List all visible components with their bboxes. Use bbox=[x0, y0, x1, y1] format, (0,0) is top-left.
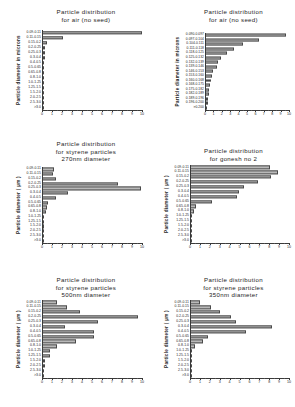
x-axis-tick bbox=[222, 110, 223, 112]
x-axis-tick bbox=[272, 110, 273, 112]
x-axis-tick-label: 9 bbox=[131, 245, 133, 249]
x-axis-tick-label: 1 bbox=[199, 380, 201, 384]
x-axis-tick bbox=[122, 378, 123, 380]
bar-series: 0.09-0.110.11-0.150.15-0.20.2-0.250.25-0… bbox=[0, 271, 148, 407]
category-label: 2.0-2.5 bbox=[24, 96, 42, 100]
x-axis-tick bbox=[102, 243, 103, 245]
x-axis-minor-tick bbox=[87, 378, 88, 379]
bar bbox=[42, 31, 142, 34]
bar bbox=[42, 41, 46, 44]
bar bbox=[42, 340, 76, 343]
x-axis-tick-label: 3 bbox=[219, 380, 221, 384]
category-label: >0.200 bbox=[183, 106, 205, 110]
x-axis-minor-tick bbox=[243, 110, 244, 111]
category-label: 0.65-0.8 bbox=[24, 71, 42, 75]
category-label: 0.5-0.65 bbox=[24, 66, 42, 70]
x-axis-tick-label: 3 bbox=[219, 245, 221, 249]
bar bbox=[42, 354, 50, 357]
x-axis-tick bbox=[289, 110, 290, 112]
category-label: 0.5-0.65 bbox=[24, 335, 42, 339]
x-axis-tick bbox=[42, 110, 43, 112]
x-axis-tick-label: 1 bbox=[51, 380, 53, 384]
bar bbox=[205, 65, 216, 68]
x-axis-minor-tick bbox=[205, 378, 206, 379]
x-axis-minor-tick bbox=[226, 110, 227, 111]
x-axis-tick-label: 0 bbox=[41, 245, 43, 249]
x-axis-minor-tick bbox=[77, 110, 78, 111]
bar bbox=[42, 196, 56, 199]
x-axis-tick-label: 3 bbox=[71, 380, 73, 384]
x-axis-minor-tick bbox=[264, 378, 265, 379]
x-axis-minor-tick bbox=[205, 243, 206, 244]
x-axis-tick bbox=[92, 110, 93, 112]
bar bbox=[205, 70, 213, 73]
bar bbox=[42, 306, 67, 309]
x-axis-tick bbox=[200, 243, 201, 245]
x-axis-minor-tick bbox=[137, 110, 138, 111]
x-axis-minor-tick bbox=[97, 378, 98, 379]
x-axis-minor-tick bbox=[215, 243, 216, 244]
x-axis-tick-label: 2 bbox=[61, 112, 63, 116]
x-axis-tick bbox=[132, 243, 133, 245]
x-axis-tick bbox=[230, 243, 231, 245]
x-axis-tick bbox=[279, 378, 280, 380]
x-axis-tick bbox=[102, 378, 103, 380]
x-axis-tick-label: 4 bbox=[238, 112, 240, 116]
bar bbox=[42, 36, 63, 39]
x-axis-tick bbox=[249, 378, 250, 380]
x-axis-tick-label: 7 bbox=[263, 112, 265, 116]
x-axis-tick bbox=[122, 110, 123, 112]
x-axis-tick bbox=[279, 243, 280, 245]
x-axis-minor-tick bbox=[127, 243, 128, 244]
x-axis-minor-tick bbox=[244, 378, 245, 379]
category-label: 0.2-0.25 bbox=[24, 46, 42, 50]
x-axis-tick bbox=[82, 378, 83, 380]
bar-series: 0.09-0.110.11-0.150.15-0.20.2-0.250.25-0… bbox=[0, 0, 148, 136]
x-axis-minor-tick bbox=[234, 110, 235, 111]
category-label: >3.0 bbox=[24, 239, 42, 243]
x-axis-minor-tick bbox=[235, 378, 236, 379]
x-axis-tick-label: 4 bbox=[229, 380, 231, 384]
chart-panel: Particle distributionfor air (no seed)Pa… bbox=[0, 0, 148, 136]
x-axis-minor-tick bbox=[215, 378, 216, 379]
x-axis-tick-label: 0 bbox=[41, 380, 43, 384]
x-axis-minor-tick bbox=[195, 243, 196, 244]
x-axis-minor-tick bbox=[87, 243, 88, 244]
x-axis-minor-tick bbox=[107, 110, 108, 111]
bar bbox=[205, 47, 234, 50]
bar bbox=[42, 168, 54, 171]
x-axis-tick bbox=[240, 378, 241, 380]
bar bbox=[42, 187, 141, 190]
category-label: 0.4-0.5 bbox=[172, 195, 190, 199]
bar bbox=[42, 325, 65, 328]
x-axis-tick bbox=[240, 243, 241, 245]
x-axis-minor-tick bbox=[254, 378, 255, 379]
x-axis-tick-label: 7 bbox=[111, 380, 113, 384]
bar bbox=[190, 301, 200, 304]
x-axis-tick-label: 4 bbox=[81, 380, 83, 384]
chart-panel: Particle distributionfor gonesh no 2Part… bbox=[148, 136, 295, 271]
x-axis-tick bbox=[247, 110, 248, 112]
x-axis-tick-label: 3 bbox=[71, 112, 73, 116]
category-label: 0.5-0.65 bbox=[172, 335, 190, 339]
x-axis-tick-label: 0 bbox=[41, 112, 43, 116]
bar bbox=[42, 350, 50, 353]
x-axis-tick-label: 2 bbox=[209, 380, 211, 384]
x-axis-tick-label: 6 bbox=[101, 112, 103, 116]
x-axis-minor-tick bbox=[47, 378, 48, 379]
x-axis-tick-label: 10 bbox=[287, 112, 291, 116]
bar bbox=[190, 180, 257, 183]
category-label: 0.4-0.5 bbox=[24, 61, 42, 65]
category-label: 2.5-3.0 bbox=[24, 101, 42, 105]
x-axis-tick bbox=[62, 243, 63, 245]
x-axis-tick-label: 10 bbox=[140, 112, 144, 116]
x-axis-minor-tick bbox=[127, 110, 128, 111]
x-axis-minor-tick bbox=[260, 110, 261, 111]
bar bbox=[190, 195, 237, 198]
x-axis-tick-label: 6 bbox=[248, 380, 250, 384]
x-axis-tick-label: 2 bbox=[61, 380, 63, 384]
bar bbox=[205, 56, 221, 59]
x-axis-tick-label: 8 bbox=[121, 380, 123, 384]
bar bbox=[42, 320, 98, 323]
x-axis-tick bbox=[289, 243, 290, 245]
